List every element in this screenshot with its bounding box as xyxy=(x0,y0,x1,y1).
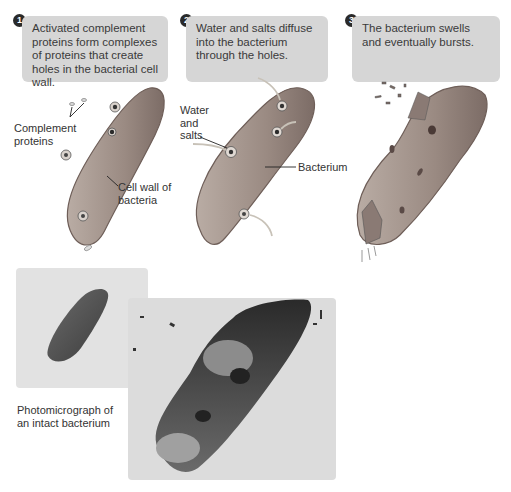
bacterium-2-icon xyxy=(193,78,315,244)
cell-wall-label: Cell wall of bacteria xyxy=(118,181,178,206)
bacterium-1-icon xyxy=(61,88,164,252)
water-salts-label: Water and salts xyxy=(180,104,215,142)
burst-bacterium-icon xyxy=(128,298,336,480)
bacterium-3-icon xyxy=(357,82,487,262)
photo-caption: Photomicrograph of an intact bacterium xyxy=(17,404,127,429)
complement-proteins-label: Complement proteins xyxy=(14,122,84,147)
photomicrograph-burst xyxy=(128,298,336,480)
bacterium-label: Bacterium xyxy=(298,161,348,174)
